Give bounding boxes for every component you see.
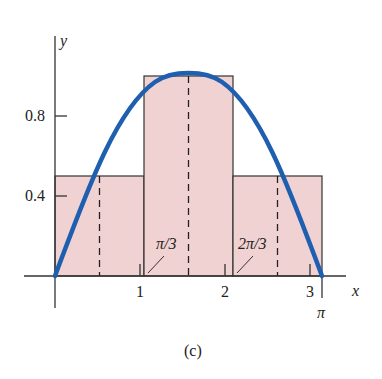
annotation-pi-over-3: π/3 <box>156 236 176 252</box>
chart-canvas <box>0 0 382 379</box>
figure-caption: (c) <box>184 343 202 359</box>
y-axis-label: y <box>60 33 67 49</box>
y-tick-label-08: 0.8 <box>25 108 45 124</box>
annotation-2pi-over-3: 2π/3 <box>238 236 266 252</box>
x-axis-label: x <box>352 283 359 299</box>
y-tick-label-04: 0.4 <box>25 188 45 204</box>
x-tick-label-2: 2 <box>221 284 229 300</box>
x-tick-label-3: 3 <box>306 284 314 300</box>
x-tick-label-1: 1 <box>136 284 144 300</box>
x-tick-label-pi: π <box>317 305 325 321</box>
